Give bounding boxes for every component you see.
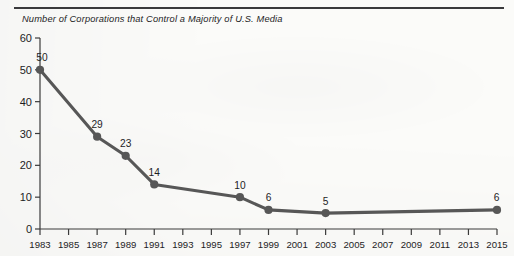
x-tick-label: 1989 (115, 239, 136, 250)
y-tick-label: 10 (20, 191, 32, 203)
y-tick-label: 0 (26, 223, 32, 235)
x-tick-label: 1999 (258, 239, 279, 250)
data-point-label: 29 (91, 119, 103, 130)
data-point-marker (236, 193, 244, 201)
x-tick-label: 2013 (458, 239, 479, 250)
series-point-labels: 5029231410656 (36, 52, 499, 206)
data-point-marker (322, 209, 330, 217)
y-tick-label: 50 (20, 64, 32, 76)
x-tick-label: 2005 (344, 239, 365, 250)
x-tick-label: 2015 (486, 239, 507, 250)
y-tick-label: 20 (20, 159, 32, 171)
y-tick-label: 30 (20, 128, 32, 140)
data-point-label: 50 (36, 52, 48, 63)
x-tick-label: 1983 (29, 239, 50, 250)
chart-page: Number of Corporations that Control a Ma… (0, 0, 514, 256)
y-tick-label: 60 (20, 32, 32, 44)
data-point-marker (36, 66, 44, 74)
data-point-marker (493, 206, 501, 214)
data-point-marker (122, 152, 130, 160)
data-point-marker (264, 206, 272, 214)
x-tick-label: 1987 (86, 239, 107, 250)
x-tick-label: 1993 (172, 239, 193, 250)
data-point-marker (93, 133, 101, 141)
data-point-label: 6 (266, 192, 272, 203)
x-tick-label: 1995 (201, 239, 222, 250)
x-tick-label: 1997 (229, 239, 250, 250)
data-point-label: 6 (494, 192, 500, 203)
data-point-label: 10 (234, 180, 246, 191)
x-tick-label: 2001 (286, 239, 307, 250)
x-axis-ticks: 1983198519871989199119931995199719992001… (29, 229, 507, 250)
data-point-label: 14 (149, 167, 161, 178)
x-tick-label: 2011 (430, 239, 451, 250)
data-point-label: 5 (323, 196, 329, 207)
x-tick-label: 1991 (144, 239, 165, 250)
data-point-label: 23 (120, 138, 132, 149)
x-tick-label: 1985 (58, 239, 79, 250)
x-tick-label: 2009 (401, 239, 422, 250)
data-point-marker (150, 180, 158, 188)
x-tick-label: 2003 (315, 239, 336, 250)
x-tick-label: 2007 (372, 239, 393, 250)
x-axis: 1983198519871989199119931995199719992001… (29, 229, 507, 250)
line-chart-plot: 0102030405060 19831985198719891991199319… (0, 0, 514, 256)
y-tick-label: 40 (20, 96, 32, 108)
